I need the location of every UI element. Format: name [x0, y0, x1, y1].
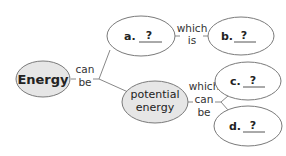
node-c-blank[interactable]: ? — [250, 74, 256, 87]
node-energy: Energy — [16, 61, 70, 97]
link-which-can-be-line3: be — [197, 106, 210, 118]
link-can-be-line1: can — [76, 63, 95, 75]
node-d-blank[interactable]: ? — [250, 119, 256, 132]
node-b[interactable]: b. ? — [208, 17, 274, 55]
link-which-can-be: which can be — [189, 80, 220, 118]
node-a[interactable]: a. ? — [107, 16, 175, 56]
node-b-blank[interactable]: ? — [241, 29, 247, 42]
node-a-prefix: a. — [124, 30, 136, 43]
link-which-is-line1: which — [177, 22, 208, 34]
concept-map: Energy can be a. ? which is b. ? potenti… — [0, 0, 286, 156]
node-energy-label: Energy — [17, 72, 69, 87]
node-a-blank[interactable]: ? — [146, 29, 152, 42]
node-c-prefix: c. — [230, 75, 241, 88]
link-can-be-line2: be — [78, 76, 91, 88]
link-which-can-be-line2: can — [195, 93, 214, 105]
node-potential-energy: potential energy — [122, 81, 188, 123]
node-d[interactable]: d. ? — [214, 106, 282, 146]
node-potential-line1: potential — [131, 88, 180, 101]
node-potential-line2: energy — [136, 101, 175, 114]
link-which-is: which is — [177, 22, 208, 46]
link-which-is-line2: is — [188, 34, 196, 46]
node-c[interactable]: c. ? — [215, 62, 281, 100]
link-can-be: can be — [76, 63, 95, 88]
node-b-prefix: b. — [221, 30, 233, 43]
node-d-prefix: d. — [229, 120, 241, 133]
